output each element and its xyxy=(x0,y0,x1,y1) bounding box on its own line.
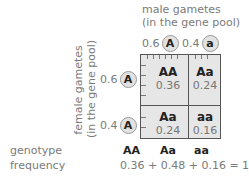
female-gametes-subtitle: (in the gene pool) xyxy=(85,42,98,138)
cell-Aa-bottom: Aa 0.24 xyxy=(149,110,187,138)
allele-circle-icon: A xyxy=(120,71,137,88)
male-gametes-title: male gametes xyxy=(142,3,221,16)
ruler-tick xyxy=(153,55,154,59)
female-gamete-freq: 0.6 xyxy=(100,73,118,86)
male-gamete-a1: 0.6 A xyxy=(142,35,179,52)
female-gamete-freq: 0.4 xyxy=(100,119,118,132)
cell-genotype: AA xyxy=(159,65,178,79)
frequency-equation: 0.36 + 0.48 + 0.16 = 1.0 xyxy=(120,159,249,172)
cell-frequency: 0.36 xyxy=(156,79,181,93)
male-gamete-freq: 0.6 xyxy=(142,37,160,50)
frequency-label: frequency xyxy=(10,159,65,172)
allele-circle-icon: A xyxy=(162,35,179,52)
ruler-tick xyxy=(177,55,178,59)
allele-circle-icon: A xyxy=(120,117,137,134)
male-gametes-subtitle: (in the gene pool) xyxy=(142,16,240,29)
punnett-square: AA 0.36 Aa 0.24 Aa 0.24 aa 0.16 xyxy=(140,54,221,139)
ruler-tick xyxy=(207,55,208,59)
cell-genotype: Aa xyxy=(196,65,213,79)
grid-divider-horizontal xyxy=(141,105,220,106)
female-gamete-2: 0.4 A xyxy=(100,117,137,134)
ruler-tick xyxy=(141,95,146,96)
ruler-tick xyxy=(165,55,166,59)
ruler-tick xyxy=(195,55,196,59)
cell-frequency: 0.24 xyxy=(156,124,181,138)
ruler-tick xyxy=(141,117,146,118)
ruler-tick xyxy=(201,55,202,59)
male-gamete-freq: 0.4 xyxy=(182,37,200,50)
summary-genotype-aa: aa xyxy=(194,144,209,157)
summary-genotype-Aa: Aa xyxy=(160,144,176,157)
female-gametes-label: female gametes (in the gene pool) xyxy=(72,42,98,138)
genotype-label: genotype xyxy=(10,144,62,157)
summary-genotype-AA: AA xyxy=(123,144,140,157)
ruler-tick xyxy=(141,75,146,76)
female-gametes-title: female gametes xyxy=(72,42,85,138)
female-gamete-1: 0.6 A xyxy=(100,71,137,88)
cell-aa: aa 0.16 xyxy=(189,110,221,138)
ruler-tick xyxy=(141,127,146,128)
cell-AA: AA 0.36 xyxy=(149,65,187,93)
allele-circle-icon: a xyxy=(202,35,219,52)
cell-frequency: 0.16 xyxy=(193,124,218,138)
male-gamete-a2: 0.4 a xyxy=(182,35,219,52)
ruler-tick xyxy=(171,55,172,59)
ruler-tick xyxy=(159,55,160,59)
cell-frequency: 0.24 xyxy=(193,79,218,93)
cell-Aa-top: Aa 0.24 xyxy=(189,65,221,93)
cell-genotype: Aa xyxy=(159,110,176,124)
ruler-tick xyxy=(147,55,148,59)
cell-genotype: aa xyxy=(197,110,213,124)
ruler-tick xyxy=(141,65,146,66)
ruler-tick xyxy=(141,85,146,86)
